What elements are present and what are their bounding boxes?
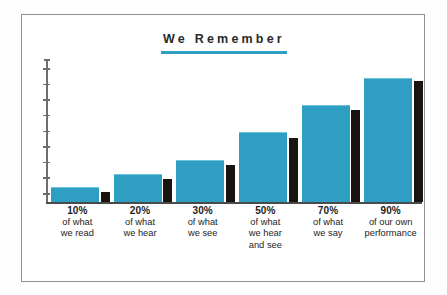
bar-shadow [226,165,235,202]
bar-series-container [51,59,422,202]
x-axis-label-line: performance [353,228,428,239]
bar-group[interactable] [176,59,239,202]
bar-main[interactable] [176,160,224,202]
y-axis-tick [43,162,50,164]
bar-group[interactable] [364,59,427,202]
bar-shadow [414,81,423,202]
bar-shadow [163,179,172,202]
bar-main[interactable] [302,105,350,202]
bar-main[interactable] [364,78,412,202]
bar-group[interactable] [302,59,365,202]
y-axis-tick [43,131,50,133]
y-axis-tick [43,115,50,117]
y-axis-tick [43,177,50,179]
bar-shadow [101,192,110,202]
x-axis-label-line: and see [228,240,303,251]
y-axis-tick [43,146,50,148]
y-axis-tick [43,84,50,86]
x-axis-baseline [46,202,422,204]
x-axis-labels: 10%of whatwe read20%of whatwe hear30%of … [46,205,422,275]
page-title: We Remember [161,32,287,49]
x-axis-label-percent: 90% [353,205,428,216]
x-axis-label: 90%of our ownperformance [353,205,428,240]
plot-area [46,59,422,202]
bar-group[interactable] [239,59,302,202]
bar-main[interactable] [114,174,162,202]
bar-main[interactable] [239,132,287,202]
bar-main[interactable] [51,187,99,202]
x-axis-label-line: of our own [353,217,428,228]
title-underline-rule [161,51,287,54]
y-axis-tick [43,193,50,195]
page-canvas: We Remember 10%of whatwe read20%of whatw… [0,0,447,295]
chart-title-container: We Remember [22,29,426,54]
y-axis-tick [43,99,50,101]
bar-shadow [289,138,298,202]
bar-shadow [351,110,360,202]
chart-frame: We Remember 10%of whatwe read20%of whatw… [21,14,425,282]
y-axis-top-cap [44,59,50,61]
y-axis-tick [43,68,50,70]
bar-group[interactable] [114,59,177,202]
bar-group[interactable] [51,59,114,202]
